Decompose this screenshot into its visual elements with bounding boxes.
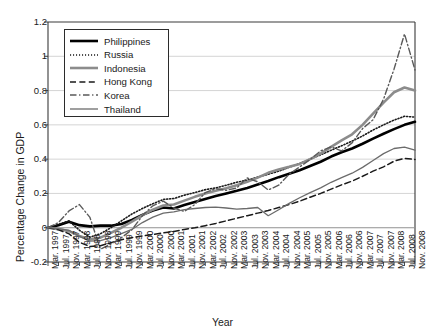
legend-label: Indonesia (104, 63, 146, 74)
x-tick-label: Jul. 2002 (219, 234, 228, 269)
x-tick-label: Jul. 2000 (156, 234, 165, 269)
x-tick-label: Mar. 2008 (397, 231, 406, 269)
legend-swatch (69, 103, 99, 115)
x-tick-label: Nov. 2007 (387, 230, 396, 269)
x-tick-label: Nov. 2005 (324, 230, 333, 269)
x-tick-label: Nov. 2000 (167, 230, 176, 269)
legend-label: Korea (104, 90, 130, 101)
x-tick-label: Mar. 2001 (177, 231, 186, 269)
legend-item-korea: Korea (65, 88, 170, 102)
x-tick-label: Mar. 1999 (114, 231, 123, 269)
x-tick-label: Nov. 1997 (72, 230, 81, 269)
x-tick-label: Nov. 2002 (230, 230, 239, 269)
x-tick-label: Jul. 1999 (125, 234, 134, 269)
x-tick-label: Nov. 1998 (104, 230, 113, 269)
x-tick-label: Mar. 1998 (83, 231, 92, 269)
x-tick-label: Nov. 2003 (261, 230, 270, 269)
legend-item-philippines: Philippines (65, 34, 170, 48)
legend-label: Hong Kong (104, 76, 152, 87)
x-tick-label: Jul. 1997 (62, 234, 71, 269)
x-tick-label: Jul. 2006 (345, 234, 354, 269)
x-tick-label: Nov. 2001 (198, 230, 207, 269)
x-tick-label: Nov. 2008 (418, 230, 427, 269)
x-tick-label: Jul. 2003 (251, 234, 260, 269)
x-tick-label: Nov. 1999 (135, 230, 144, 269)
legend-label: Thailand (104, 104, 141, 115)
chart-legend: PhilippinesRussiaIndonesiaHong KongKorea… (64, 29, 169, 117)
x-tick-label: Mar. 2006 (335, 231, 344, 269)
legend-item-indonesia: Indonesia (65, 61, 170, 75)
legend-label: Philippines (104, 36, 150, 47)
legend-swatch (69, 89, 99, 101)
x-tick-label: Jul. 2007 (376, 234, 385, 269)
x-tick-label: Mar. 1997 (51, 231, 60, 269)
x-tick-label: Jul. 2005 (314, 234, 323, 269)
x-tick-label: Jul. 2008 (408, 234, 417, 269)
x-tick-label: Mar. 2000 (146, 231, 155, 269)
legend-item-hong-kong: Hong Kong (65, 75, 170, 89)
legend-swatch (69, 35, 99, 47)
x-tick-label: Mar. 2007 (366, 231, 375, 269)
x-tick-label: Mar. 2005 (303, 231, 312, 269)
legend-swatch (69, 76, 99, 88)
x-tick-label: Mar. 2003 (240, 231, 249, 269)
x-tick-label: Mar. 2004 (272, 231, 281, 269)
x-tick-label: Jul. 2004 (282, 234, 291, 269)
x-tick-label: Mar. 2002 (209, 231, 218, 269)
x-tick-label: Jul. 1998 (93, 234, 102, 269)
legend-swatch (69, 49, 99, 61)
legend-item-russia: Russia (65, 48, 170, 62)
chart-figure: Percentage Change in GDP 1.210.80.60.40.… (0, 0, 445, 335)
x-tick-label: Nov. 2006 (355, 230, 364, 269)
x-axis-title: Year (0, 316, 445, 328)
legend-swatch (69, 62, 99, 74)
x-tick-label: Nov. 2004 (293, 230, 302, 269)
x-tick-label: Jul. 2001 (188, 234, 197, 269)
legend-item-thailand: Thailand (65, 102, 170, 116)
legend-label: Russia (104, 49, 133, 60)
